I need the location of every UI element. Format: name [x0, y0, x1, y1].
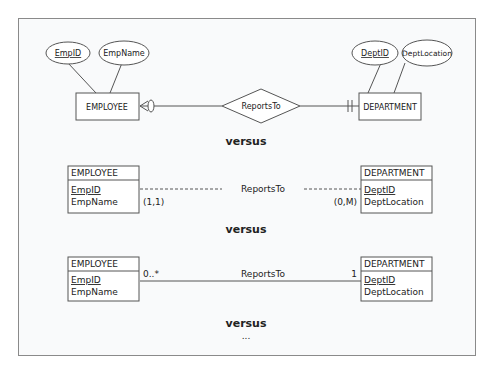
- class-title: DEPARTMENT: [364, 259, 425, 269]
- er-notation-comparison: EmpID EmpName DeptID DeptLocation EMPLOY…: [0, 0, 492, 372]
- attr-connector: [394, 63, 405, 93]
- attr-key: DeptID: [364, 275, 395, 285]
- attr-label: EmpID: [55, 49, 81, 58]
- versus-label: versus: [226, 135, 267, 148]
- multiplicity-employee: 0..*: [143, 269, 159, 279]
- attr-key: EmpID: [71, 185, 101, 195]
- entity-box-department: DEPARTMENT DeptID DeptLocation: [361, 166, 432, 213]
- entity-title: DEPARTMENT: [364, 168, 425, 178]
- class-box-employee: EMPLOYEE EmpID EmpName: [68, 257, 139, 301]
- entity-label: EMPLOYEE: [86, 103, 128, 112]
- attr: EmpName: [71, 287, 118, 297]
- attr: DeptLocation: [364, 197, 424, 207]
- entity-employee: EMPLOYEE: [76, 93, 139, 120]
- attr-connector: [68, 63, 96, 93]
- attr-connector: [110, 63, 122, 93]
- attr-key: EmpID: [71, 275, 101, 285]
- relationship-label: ReportsTo: [241, 102, 280, 111]
- cardinality-department: (0,M): [334, 197, 357, 207]
- association-label: ReportsTo: [241, 269, 285, 279]
- relationship-label: ReportsTo: [241, 184, 285, 194]
- attribute-deptid: DeptID: [352, 41, 398, 65]
- class-box-department: DEPARTMENT DeptID DeptLocation: [361, 257, 432, 301]
- attr: EmpName: [71, 197, 118, 207]
- ellipsis: ...: [242, 331, 251, 341]
- attr-connector: [368, 63, 381, 93]
- cardinality-employee: (1,1): [143, 197, 164, 207]
- attr: DeptLocation: [364, 287, 424, 297]
- entity-box-employee: EMPLOYEE EmpID EmpName: [68, 166, 139, 213]
- attr-label: EmpName: [103, 49, 145, 58]
- attr-label: DeptID: [361, 49, 389, 58]
- versus-label: versus: [226, 223, 267, 236]
- entity-title: EMPLOYEE: [71, 168, 118, 178]
- entity-label: DEPARTMENT: [363, 103, 417, 112]
- entity-department: DEPARTMENT: [359, 93, 421, 120]
- relationship-reportsto: ReportsTo: [222, 89, 300, 123]
- attribute-empname: EmpName: [99, 41, 149, 65]
- class-title: EMPLOYEE: [71, 259, 118, 269]
- versus-label: versus: [226, 317, 267, 330]
- attribute-deptlocation: DeptLocation: [402, 40, 452, 66]
- attr-key: DeptID: [364, 185, 395, 195]
- attr-label: DeptLocation: [402, 49, 452, 58]
- attribute-empid: EmpID: [46, 42, 90, 64]
- multiplicity-department: 1: [351, 269, 357, 279]
